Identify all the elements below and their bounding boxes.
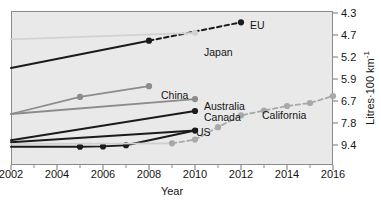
series-marker-canada [192, 108, 198, 114]
series-marker-eu [238, 19, 244, 25]
y-axis-tick-label: 7.8 [341, 117, 356, 129]
series-label-eu: EU [250, 19, 265, 31]
x-axis-title: Year [161, 185, 183, 197]
y-axis-tick-label: 5.9 [341, 73, 356, 85]
series-marker-california [169, 140, 175, 146]
series-line-china [11, 86, 149, 114]
x-axis-tick-label: 2014 [275, 168, 299, 180]
y-axis-tick-label: 9.4 [341, 139, 356, 151]
series-marker-california [330, 93, 336, 99]
y-axis-tick-label: 6.7 [341, 95, 356, 107]
chart-root: 20022004200620082010201220142016 4.34.75… [0, 0, 381, 204]
series-marker-japan [192, 30, 198, 36]
series-marker-california [215, 124, 221, 130]
series-line-japan-baseline [11, 143, 172, 144]
y-axis-tick-label: 4.3 [341, 7, 356, 19]
series-label-california: California [262, 109, 306, 121]
x-axis-tick-label: 2002 [0, 168, 23, 180]
series-label-japan: Japan [204, 46, 233, 58]
x-axis-tick-label: 2016 [321, 168, 345, 180]
series-label-canada: Canada [204, 111, 241, 123]
series-label-china: China [161, 89, 188, 101]
series-marker-china [146, 83, 152, 89]
x-axis-tick-label: 2008 [137, 168, 161, 180]
series-marker-australia [192, 96, 198, 102]
y-axis-tick-label: 4.7 [341, 29, 356, 41]
y-axis-title-base: Litres·100 km [364, 58, 376, 125]
y-axis-title-exponent: -1 [362, 51, 371, 58]
y-axis-title: Litres·100 km-1 [362, 51, 376, 125]
data-series-layer [11, 19, 336, 149]
x-axis-tick-label: 2004 [45, 168, 69, 180]
x-axis-tick-label: 2012 [229, 168, 253, 180]
series-marker-china [77, 94, 83, 100]
series-marker-eu [146, 38, 152, 44]
series-marker-california [307, 100, 313, 106]
x-axis-tick-label: 2010 [183, 168, 207, 180]
y-axis-tick-label: 5.2 [341, 51, 356, 63]
series-line-eu [11, 41, 149, 68]
x-axis-tick-label: 2006 [91, 168, 115, 180]
series-label-us: US [196, 126, 211, 138]
